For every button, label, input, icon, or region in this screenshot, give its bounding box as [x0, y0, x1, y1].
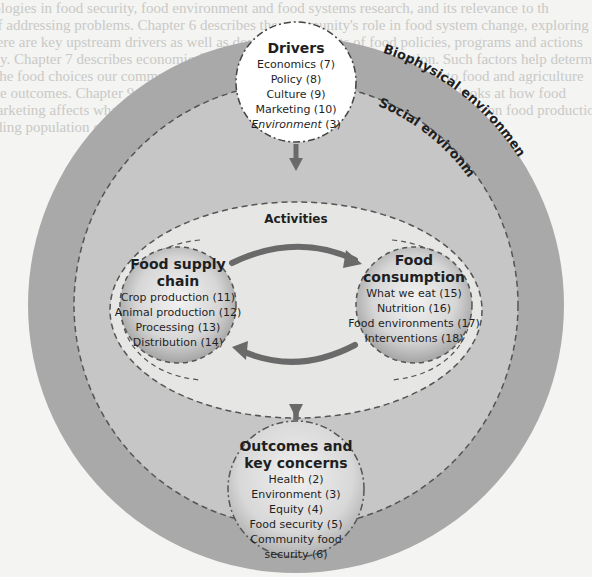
food-consumption-label-group: Food consumption What we eat (15) Nutrit…: [348, 252, 480, 346]
food-consumption-item: What we eat (15): [348, 286, 480, 301]
food-supply-chain-item: Processing (13): [112, 320, 244, 335]
food-supply-chain-item: Animal production (12): [112, 305, 244, 320]
environment-ref: (3): [322, 118, 341, 131]
outcomes-title: key concerns: [231, 455, 361, 472]
drivers-item: Culture (9): [236, 87, 356, 102]
food-consumption-item: Interventions (18): [348, 331, 480, 346]
outcomes-item: Food security (5): [231, 517, 361, 532]
food-consumption-item: Food environments (17): [348, 316, 480, 331]
outcomes-item: Environment (3): [231, 487, 361, 502]
food-consumption-title: consumption: [348, 269, 480, 286]
outcomes-title: Outcomes and: [231, 438, 361, 455]
outcomes-label-group: Outcomes and key concerns Health (2) Env…: [231, 438, 361, 562]
outcomes-item: Community food: [231, 532, 361, 547]
drivers-item: Marketing (10): [236, 102, 356, 117]
drivers-item: Policy (8): [236, 72, 356, 87]
environment-name: Environment: [251, 118, 321, 131]
outcomes-item: Health (2): [231, 472, 361, 487]
food-supply-chain-label-group: Food supply chain Crop production (11) A…: [112, 256, 244, 350]
food-consumption-item: Nutrition (16): [348, 301, 480, 316]
food-supply-chain-item: Crop production (11): [112, 290, 244, 305]
drivers-label-group: Drivers Economics (7) Policy (8) Culture…: [236, 40, 356, 132]
outcomes-item: Equity (4): [231, 502, 361, 517]
drivers-title: Drivers: [236, 40, 356, 57]
food-supply-chain-title: chain: [112, 273, 244, 290]
drivers-item-environment: Environment (3): [236, 117, 356, 132]
activities-label: Activities: [236, 212, 356, 226]
food-supply-chain-item: Distribution (14): [112, 335, 244, 350]
drivers-item: Economics (7): [236, 57, 356, 72]
food-supply-chain-title: Food supply: [112, 256, 244, 273]
food-consumption-title: Food: [348, 252, 480, 269]
outcomes-item: security (6): [231, 547, 361, 562]
